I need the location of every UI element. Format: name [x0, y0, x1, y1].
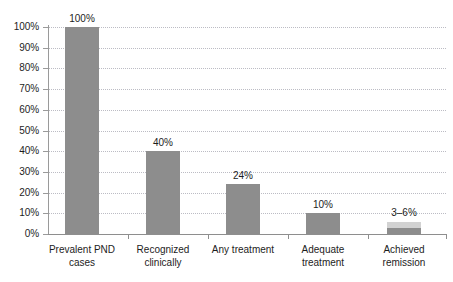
category-label-4-line-1: Adequate — [283, 243, 363, 256]
category-label-2: Recognized clinically — [123, 243, 203, 269]
category-label-5-line-1: Achieved — [364, 243, 444, 256]
category-label-3: Any treatment — [203, 243, 283, 256]
category-label-1-line-1: Prevalent PND — [42, 243, 122, 256]
category-label-3-line-1: Any treatment — [203, 243, 283, 256]
category-label-1-line-2: cases — [42, 256, 122, 269]
bar-chart: 100% 90% 80% 70% 60% 50% 40% 30% 20% 10%… — [0, 0, 453, 282]
category-label-1: Prevalent PND cases — [42, 243, 122, 269]
category-label-4: Adequate treatment — [283, 243, 363, 269]
category-label-2-line-1: Recognized — [123, 243, 203, 256]
category-label-5-line-2: remission — [364, 256, 444, 269]
x-axis-labels: Prevalent PND cases Recognized clinicall… — [0, 0, 453, 282]
category-label-2-line-2: clinically — [123, 256, 203, 269]
category-label-4-line-2: treatment — [283, 256, 363, 269]
category-label-5: Achieved remission — [364, 243, 444, 269]
